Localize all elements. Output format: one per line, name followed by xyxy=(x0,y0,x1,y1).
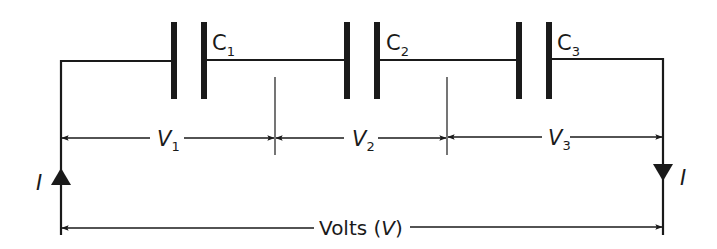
voltage-label-v3: V3 xyxy=(548,126,571,153)
current-arrow-down-icon xyxy=(653,164,673,181)
capacitor-plate xyxy=(374,22,380,99)
capacitor-c1 xyxy=(171,22,207,99)
voltage-label-v1: V1 xyxy=(157,127,180,154)
voltage-label-v2: V2 xyxy=(352,127,375,154)
series-capacitor-diagram: C1 C2 C3 V1 V2 V3 I I Volt xyxy=(0,0,717,249)
current-arrow-up-icon xyxy=(51,168,71,185)
current-label-left: I xyxy=(36,171,42,195)
capacitor-plate xyxy=(171,22,177,99)
capacitor-c2 xyxy=(344,22,380,99)
capacitor-plate xyxy=(516,22,522,99)
capacitor-c3 xyxy=(516,22,552,99)
capacitor-plate xyxy=(546,22,552,99)
total-voltage-label: Volts (V) xyxy=(319,216,403,240)
current-label-right: I xyxy=(680,166,686,190)
capacitor-label-c3: C3 xyxy=(557,31,580,59)
capacitor-label-c1: C1 xyxy=(212,31,235,59)
capacitor-label-c2: C2 xyxy=(386,31,409,59)
capacitor-plate xyxy=(201,22,207,99)
capacitor-plate xyxy=(344,22,350,99)
